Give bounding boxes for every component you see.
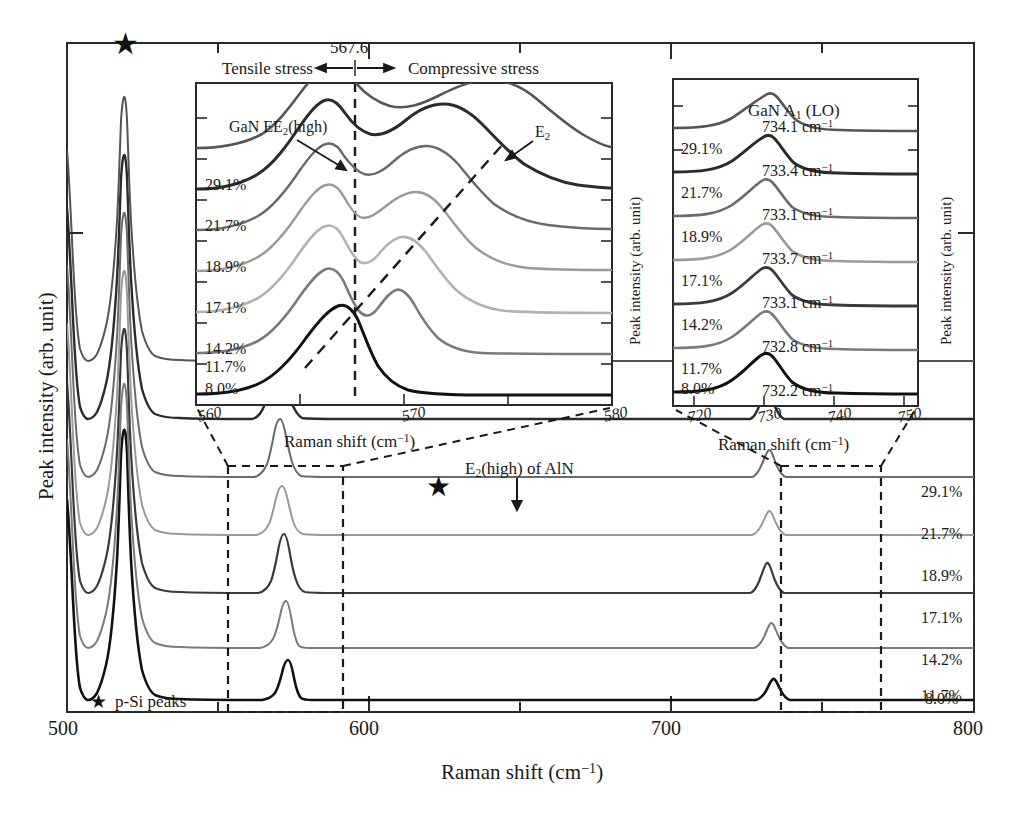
main-series-label-171: 17.1% [921, 609, 962, 627]
main-series-label-142: 14.2% [921, 651, 962, 669]
star-marker-psi-mid: ★ [426, 471, 451, 502]
main-series-label-291: 29.1% [921, 483, 962, 501]
compressive-stress-label: Compressive stress [408, 59, 539, 79]
inset-left-series-142: 14.2% [205, 340, 246, 358]
inset-right-comp-217: 21.7% [681, 184, 722, 202]
inset-right-peak-189: 733.1 cm−1 [762, 205, 833, 224]
inset-right-comp-142: 14.2% [681, 316, 722, 334]
inset-right-comp-171: 17.1% [681, 272, 722, 290]
inset-right-peak-80: 732.2 cm−1 [762, 381, 833, 400]
main-xtick-800: 800 [953, 717, 983, 740]
inset-left-series-291: 29.1% [205, 176, 246, 194]
gan-e2-high-label: GaN EE2(high) [229, 118, 327, 137]
inset-left-series-171: 17.1% [205, 299, 246, 317]
inset-selection-boxes [228, 466, 881, 712]
main-x-axis-title: Raman shift (cm−1) [441, 760, 603, 785]
inset-right-comp-189: 18.9% [681, 228, 722, 246]
inset-left-series-117: 11.7% [205, 358, 246, 376]
inset-right-peak-142: 733.1 cm−1 [762, 293, 833, 312]
star-marker-legend: ★ [90, 691, 107, 712]
stress-double-arrow [316, 60, 394, 76]
main-xtick-500: 500 [48, 717, 78, 740]
reference-value-5676: 567.6 [330, 38, 368, 58]
aln-annotation-label: E2(high) of AlN [465, 459, 574, 480]
main-series-label-217: 21.7% [921, 525, 962, 543]
inset-right-peak-217: 733.4 cm−1 [762, 161, 833, 180]
inset-right-comp-117: 11.7% [681, 360, 722, 378]
psi-legend-label: p-Si peaks [115, 692, 186, 712]
inset-right-x-axis-title: Raman shift (cm−1) [718, 435, 849, 455]
main-series-label-80b: 8.0% [925, 690, 958, 708]
tensile-stress-label: Tensile stress [222, 59, 313, 79]
selection-box-left [228, 466, 343, 712]
inset-right-peak-171: 733.7 cm−1 [762, 249, 833, 268]
selection-box-right [781, 466, 881, 712]
main-series-label-189: 18.9% [921, 567, 962, 585]
main-xtick-600: 600 [349, 717, 379, 740]
main-xtick-700: 700 [651, 717, 681, 740]
inset-right-peak-117: 732.8 cm−1 [762, 337, 833, 356]
e2-label: E2 [535, 123, 550, 142]
aln-arrow-annotation [513, 478, 522, 510]
inset-left-series-80: 8.0% [205, 380, 238, 398]
inset-left-series-217: 21.7% [205, 217, 246, 235]
star-marker-psi-top: ★ [112, 27, 139, 60]
inset-right-comp-80: 8.0% [681, 380, 714, 398]
inset-left-y-axis-title: Peak intensity (arb. unit) [627, 197, 644, 345]
inset-left-x-axis-title: Raman shift (cm−1) [284, 432, 415, 452]
inset-left-series-189: 18.9% [205, 258, 246, 276]
main-y-axis-title: Peak intensity (arb. unit) [34, 292, 59, 500]
inset-right-y-axis-title: Peak intensity (arb. unit) [938, 197, 955, 345]
inset-right-peak-291: 734.1 cm−1 [762, 117, 833, 136]
inset-right-comp-291: 29.1% [681, 140, 722, 158]
